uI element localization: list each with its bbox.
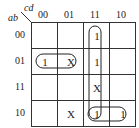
cell-01-01: X [58,49,84,75]
cell-10-01: X [58,101,84,127]
cell-01-11: 1 [84,49,110,75]
cell-00-11: 1 [84,23,110,49]
cell-01-00: 1 [32,49,58,75]
cell-10-11: 1 [84,101,110,127]
cell-11-11: X [84,75,110,101]
cell-10-10: 1 [110,101,136,127]
